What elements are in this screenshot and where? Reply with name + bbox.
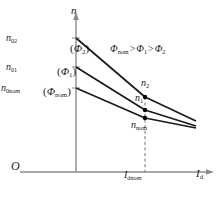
curve-label-phi1: (Φ1) [57,66,76,79]
point-label-n2: n2 [141,78,149,89]
diagram-canvas [0,0,220,197]
inequality-operator-1: > [130,43,136,54]
curve-phi2-close: ) [85,42,89,54]
inequality-operator-2: > [148,43,154,54]
intercept-label-n01: n01 [6,62,17,73]
x-axis-arrowhead [206,169,214,175]
y-axis-label: n [71,5,77,16]
curve-phinom-symbol: Φ [47,85,55,97]
point-nnom-sub: nom [136,124,147,131]
inequality-term2-sub: 1 [144,48,147,55]
intercept-n02-sub: 02 [11,37,17,44]
operating-point-n1 [143,108,147,112]
curve-phi2-symbol: Φ [74,42,82,54]
curve-phi1-close: ) [72,65,76,77]
curve-phinom-close: ) [67,85,71,97]
x-tick-idnom-sub: dnom [127,174,141,181]
curve-label-phi2: (Φ2) [70,43,89,56]
curve-label-phinom: (Φnom) [43,86,71,99]
flux-inequality-annotation: Φnom>Φ1>Φ2 [110,44,165,55]
inequality-term1-sub: nom [118,48,129,55]
point-label-nnom: nnom [131,120,147,131]
curve-phinom-sub: nom [55,91,67,98]
x-axis-label: Id [196,168,203,181]
intercept-label-n02: n02 [6,33,17,44]
curve-phi1-symbol: Φ [61,65,69,77]
origin-label: O [11,160,20,172]
operating-point-n2 [143,95,147,99]
speed-current-characteristic-diagram: n Id O n02 n01 n0nom (Φ2) (Φ1) (Φnom) n2… [0,0,220,197]
point-label-n1: n1 [135,93,143,104]
x-tick-label-idnom: Idnom [124,170,141,181]
inequality-term3-sub: 2 [162,48,165,55]
inequality-term1-main: Φ [110,43,118,54]
x-axis-label-sub: d [200,173,203,180]
intercept-n01-sub: 01 [11,66,17,73]
point-n1-sub: 1 [140,97,143,104]
inequality-term2-main: Φ [136,43,144,54]
intercept-n0nom-sub: 0nom [6,87,20,94]
point-n2-sub: 2 [146,82,149,89]
intercept-label-n0nom: n0nom [1,83,20,94]
